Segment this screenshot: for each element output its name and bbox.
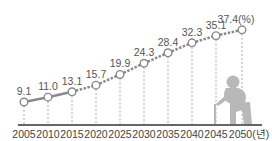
x-tick-label: 2050(년) [229, 128, 269, 140]
x-tick-label: 2010 [36, 128, 60, 140]
value-label: 15.7 [86, 68, 107, 80]
data-point [116, 71, 124, 79]
data-point [92, 81, 100, 89]
x-tick-label: 2030 [132, 128, 156, 140]
line-chart: 9.111.013.115.719.924.328.432.335.137.4(… [0, 0, 272, 141]
x-tick-label: 2020 [84, 128, 108, 140]
data-point [68, 88, 76, 96]
value-label: 37.4(%) [218, 13, 255, 25]
elderly-figure-icon [215, 76, 252, 126]
data-point [20, 98, 28, 106]
data-point [212, 32, 220, 40]
x-tick-labels: 2005201020152020202520302035204020452050… [12, 128, 269, 140]
value-label: 11.0 [38, 80, 58, 92]
value-label: 13.1 [62, 75, 83, 87]
data-point [188, 39, 196, 47]
data-point [140, 59, 148, 67]
value-label: 32.3 [182, 26, 203, 38]
value-label: 28.4 [158, 36, 179, 48]
x-tick-label: 2035 [156, 128, 180, 140]
data-point [164, 49, 172, 57]
x-tick-label: 2005 [12, 128, 36, 140]
data-point [238, 26, 246, 34]
x-tick-label: 2040 [180, 128, 204, 140]
x-tick-label: 2025 [108, 128, 132, 140]
value-label: 19.9 [110, 57, 131, 69]
value-label: 24.3 [134, 46, 155, 58]
x-tick-label: 2015 [60, 128, 84, 140]
x-tick-label: 2045 [204, 128, 228, 140]
value-labels: 9.111.013.115.719.924.328.432.335.137.4(… [17, 13, 255, 97]
data-point [44, 93, 52, 101]
chart-canvas: 9.111.013.115.719.924.328.432.335.137.4(… [0, 0, 272, 141]
value-label: 9.1 [17, 85, 32, 97]
